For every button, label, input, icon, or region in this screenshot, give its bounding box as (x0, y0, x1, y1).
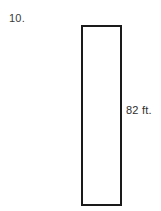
problem-number-label: 10. (9, 12, 25, 25)
side-length-label: 82 ft. (126, 103, 152, 117)
figure-canvas: 10. 82 ft. (0, 0, 161, 211)
rectangle-shape (81, 25, 122, 206)
